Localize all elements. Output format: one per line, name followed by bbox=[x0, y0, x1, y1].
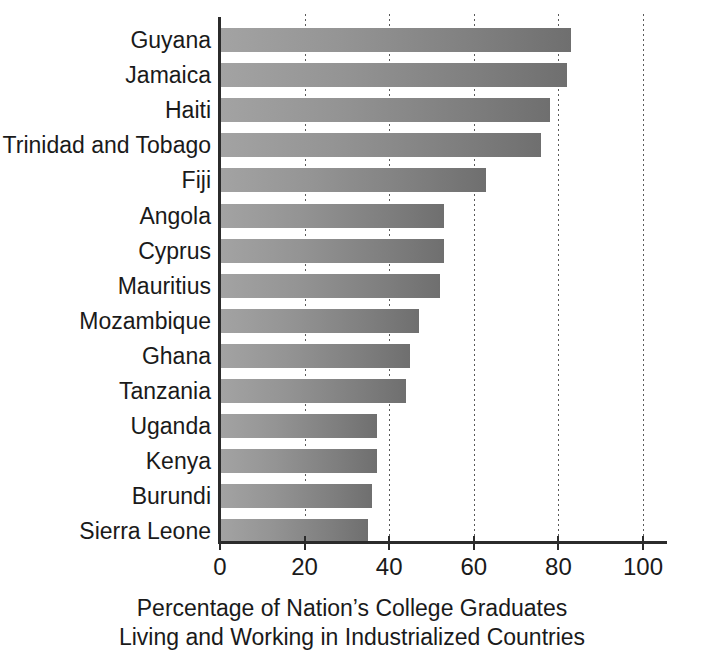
x-tick-80 bbox=[557, 536, 559, 550]
x-tick-label-40: 40 bbox=[376, 553, 403, 581]
x-tick-60 bbox=[473, 536, 475, 550]
category-label-cyprus: Cyprus bbox=[0, 237, 211, 265]
bar-row[interactable] bbox=[220, 309, 667, 344]
x-tick-label-80: 80 bbox=[545, 553, 572, 581]
category-label-burundi: Burundi bbox=[0, 482, 211, 510]
category-label-guyana: Guyana bbox=[0, 26, 211, 54]
bar-jamaica[interactable] bbox=[220, 63, 567, 87]
bar-mozambique[interactable] bbox=[220, 309, 419, 333]
bar-haiti[interactable] bbox=[220, 98, 550, 122]
caption-line-1: Percentage of Nation’s College Graduates bbox=[0, 594, 704, 623]
bar-trinidad-and-tobago[interactable] bbox=[220, 133, 541, 157]
bar-row[interactable] bbox=[220, 274, 667, 309]
category-label-sierra-leone: Sierra Leone bbox=[0, 517, 211, 545]
bar-kenya[interactable] bbox=[220, 449, 377, 473]
category-label-kenya: Kenya bbox=[0, 447, 211, 475]
x-tick-label-100: 100 bbox=[623, 553, 663, 581]
x-tick-40 bbox=[388, 536, 390, 550]
bar-row[interactable] bbox=[220, 28, 667, 63]
bar-mauritius[interactable] bbox=[220, 274, 440, 298]
category-label-angola: Angola bbox=[0, 202, 211, 230]
x-tick-0 bbox=[219, 536, 221, 550]
bar-row[interactable] bbox=[220, 484, 667, 519]
category-label-haiti: Haiti bbox=[0, 96, 211, 124]
category-axis-labels: GuyanaJamaicaHaitiTrinidad and TobagoFij… bbox=[0, 14, 211, 542]
category-label-uganda: Uganda bbox=[0, 412, 211, 440]
bar-row[interactable] bbox=[220, 98, 667, 133]
category-label-jamaica: Jamaica bbox=[0, 61, 211, 89]
bar-row[interactable] bbox=[220, 519, 667, 554]
category-label-fiji: Fiji bbox=[0, 166, 211, 194]
x-tick-label-0: 0 bbox=[213, 553, 226, 581]
bar-series bbox=[220, 14, 667, 542]
bar-row[interactable] bbox=[220, 449, 667, 484]
bar-burundi[interactable] bbox=[220, 484, 372, 508]
category-label-trinidad-and-tobago: Trinidad and Tobago bbox=[0, 131, 211, 159]
x-tick-20 bbox=[304, 536, 306, 550]
bar-cyprus[interactable] bbox=[220, 239, 444, 263]
bar-row[interactable] bbox=[220, 204, 667, 239]
bar-row[interactable] bbox=[220, 344, 667, 379]
bar-tanzania[interactable] bbox=[220, 379, 406, 403]
caption-line-2: Living and Working in Industrialized Cou… bbox=[0, 623, 704, 652]
axis-caption: Percentage of Nation’s College Graduates… bbox=[0, 594, 704, 652]
bar-uganda[interactable] bbox=[220, 414, 377, 438]
category-label-tanzania: Tanzania bbox=[0, 377, 211, 405]
x-tick-100 bbox=[642, 536, 644, 550]
bar-ghana[interactable] bbox=[220, 344, 410, 368]
x-tick-label-20: 20 bbox=[291, 553, 318, 581]
plot-area bbox=[220, 14, 667, 542]
category-label-mauritius: Mauritius bbox=[0, 272, 211, 300]
bar-row[interactable] bbox=[220, 239, 667, 274]
bar-angola[interactable] bbox=[220, 204, 444, 228]
y-axis-line bbox=[218, 17, 221, 544]
bar-row[interactable] bbox=[220, 133, 667, 168]
bar-guyana[interactable] bbox=[220, 28, 571, 52]
bar-row[interactable] bbox=[220, 168, 667, 203]
bar-fiji[interactable] bbox=[220, 168, 486, 192]
bar-row[interactable] bbox=[220, 414, 667, 449]
bar-row[interactable] bbox=[220, 379, 667, 414]
category-label-mozambique: Mozambique bbox=[0, 307, 211, 335]
bar-sierra-leone[interactable] bbox=[220, 519, 368, 543]
bar-row[interactable] bbox=[220, 63, 667, 98]
x-tick-label-60: 60 bbox=[460, 553, 487, 581]
category-label-ghana: Ghana bbox=[0, 342, 211, 370]
x-axis-line bbox=[218, 541, 667, 544]
